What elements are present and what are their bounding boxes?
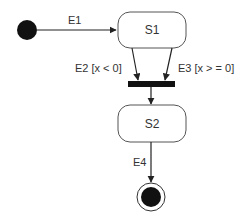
- transition-e2-label: E2 [x < 0]: [75, 62, 122, 74]
- transition-e3-arrow: [165, 48, 172, 80]
- state-s2-label: S2: [145, 117, 160, 131]
- transition-e3[interactable]: E3 [x > = 0]: [165, 48, 234, 80]
- join-bar[interactable]: [128, 81, 175, 87]
- transition-e1[interactable]: E1: [37, 14, 116, 30]
- transition-e3-label: E3 [x > = 0]: [178, 62, 234, 74]
- transition-e4[interactable]: E4: [133, 142, 151, 182]
- transition-e2-arrow: [132, 48, 138, 80]
- initial-state-node[interactable]: [17, 20, 37, 40]
- state-s1[interactable]: S1: [118, 12, 186, 48]
- state-diagram: E1 S1 E2 [x < 0] E3 [x > = 0] S2 E4: [0, 0, 240, 220]
- transition-e4-label: E4: [133, 156, 146, 168]
- transition-e2[interactable]: E2 [x < 0]: [75, 48, 138, 80]
- transition-e1-label: E1: [68, 14, 81, 26]
- state-s1-label: S1: [145, 23, 160, 37]
- final-state-dot: [141, 187, 161, 207]
- state-s2[interactable]: S2: [118, 105, 186, 142]
- final-state-node[interactable]: [137, 183, 165, 211]
